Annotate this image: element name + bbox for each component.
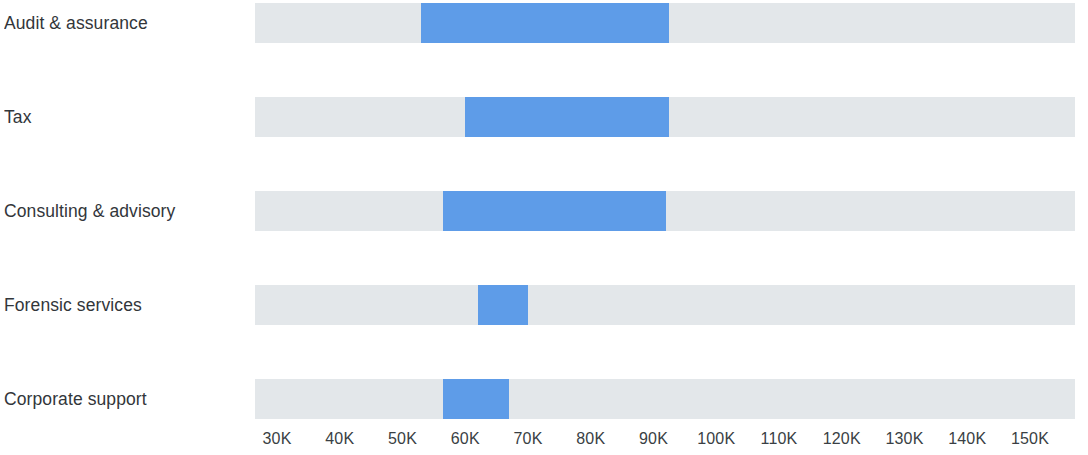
x-axis: 30K40K50K60K70K80K90K100K110K120K130K140… xyxy=(0,428,1088,455)
axis-tick-label: 110K xyxy=(761,428,798,450)
axis-tick-label: 150K xyxy=(1011,428,1049,450)
range-bar[interactable] xyxy=(465,97,669,137)
category-label: Audit & assurance xyxy=(4,3,244,43)
chart-row: Forensic services xyxy=(0,285,1088,325)
category-label: Tax xyxy=(4,97,244,137)
axis-tick-label: 60K xyxy=(451,428,480,450)
axis-tick-label: 140K xyxy=(948,428,986,450)
axis-tick-label: 80K xyxy=(576,428,605,450)
chart-row: Corporate support xyxy=(0,379,1088,419)
bar-track xyxy=(255,379,1075,419)
bar-track xyxy=(255,285,1075,325)
axis-tick-label: 70K xyxy=(513,428,542,450)
bar-track xyxy=(255,3,1075,43)
range-bar[interactable] xyxy=(443,191,666,231)
axis-tick-label: 90K xyxy=(639,428,668,450)
axis-tick-label: 100K xyxy=(697,428,735,450)
range-bar[interactable] xyxy=(478,285,528,325)
category-label: Consulting & advisory xyxy=(4,191,244,231)
axis-tick-label: 130K xyxy=(885,428,923,450)
range-bar[interactable] xyxy=(443,379,509,419)
category-label: Forensic services xyxy=(4,285,244,325)
chart-row: Tax xyxy=(0,97,1088,137)
bar-track xyxy=(255,191,1075,231)
chart-row: Consulting & advisory xyxy=(0,191,1088,231)
axis-tick-label: 40K xyxy=(325,428,354,450)
axis-tick-label: 30K xyxy=(262,428,291,450)
range-bar-chart: Audit & assuranceTaxConsulting & advisor… xyxy=(0,0,1088,455)
axis-tick-label: 120K xyxy=(823,428,861,450)
bar-track xyxy=(255,97,1075,137)
axis-tick-label: 50K xyxy=(388,428,417,450)
category-label: Corporate support xyxy=(4,379,244,419)
chart-row: Audit & assurance xyxy=(0,3,1088,43)
range-bar[interactable] xyxy=(421,3,669,43)
